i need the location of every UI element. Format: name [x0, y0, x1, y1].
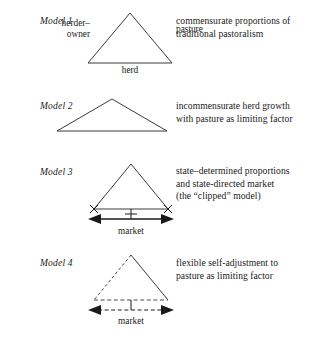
triangle-outline — [57, 99, 167, 131]
triangle-outline — [88, 13, 172, 63]
model-label-3: Model 3 — [40, 167, 73, 177]
model-row-3: Model 3 — [0, 153, 312, 240]
model-1-triangle — [86, 11, 174, 65]
model-label-4: Model 4 — [40, 258, 73, 268]
arrowhead-right-icon — [161, 214, 174, 224]
model-row-4: Model 4 market flexible self-adjustment … — [0, 240, 312, 343]
model-2-triangle — [55, 96, 169, 136]
triangle-left-side-dashed — [94, 255, 131, 300]
model-row-2: Model 2 incommensurate herd growth with … — [0, 85, 312, 153]
vertex-label-herder-owner: herder– owner — [57, 18, 90, 39]
market-label-3: market — [104, 226, 158, 237]
triangle-right-side — [131, 255, 168, 300]
arrowhead-left-icon — [88, 305, 101, 315]
model-row-1: Model 1 herder– owner pasture herd comme… — [0, 0, 312, 85]
triangle-sides — [94, 164, 168, 209]
arrowhead-left-icon — [88, 214, 101, 224]
model-4-triangle — [86, 252, 176, 314]
market-label-4: market — [104, 316, 158, 327]
figure-container: Model 1 herder– owner pasture herd comme… — [0, 0, 312, 343]
base-label-herd: herd — [104, 65, 156, 76]
model-1-description: commensurate proportions of traditional … — [176, 15, 310, 40]
arrowhead-right-icon — [161, 305, 174, 315]
model-3-description: state–determined proportions and state-d… — [176, 165, 312, 203]
model-4-description: flexible self-adjustment to pasture as l… — [176, 257, 312, 282]
model-2-description: incommensurate herd growth with pasture … — [176, 100, 312, 125]
model-3-triangle — [86, 161, 176, 223]
